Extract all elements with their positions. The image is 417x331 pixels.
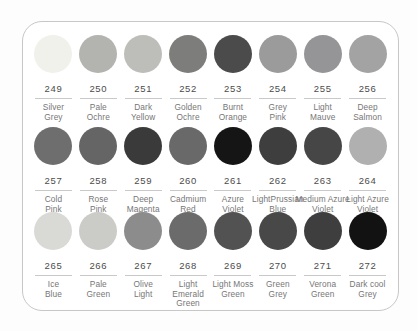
swatch-number: 272: [359, 261, 377, 271]
swatch-divider: [304, 275, 341, 276]
color-chart-card: 249 SilverGrey 250 PaleOchre 251 DarkYel…: [22, 21, 399, 311]
swatch-name-line: Grey: [266, 290, 290, 300]
swatch-grid: 249 SilverGrey 250 PaleOchre 251 DarkYel…: [31, 35, 390, 308]
color-swatch-circle: [34, 212, 72, 250]
swatch-number: 269: [224, 261, 242, 271]
swatch-divider: [214, 98, 251, 99]
swatch-number: 268: [179, 261, 197, 271]
swatch-number: 251: [134, 84, 152, 94]
swatch-number: 266: [89, 261, 107, 271]
swatch-name-line: Mauve: [310, 113, 335, 123]
swatch-number: 252: [179, 84, 197, 94]
swatch-name-line: Ochre: [174, 113, 201, 123]
swatch-name: DarkYellow: [131, 103, 155, 122]
swatch-divider: [35, 275, 72, 276]
color-swatch-cell: 264 Light AzureViolet: [345, 127, 390, 212]
color-swatch-cell: 252 GoldenOchre: [166, 35, 211, 127]
swatch-number: 262: [269, 176, 287, 186]
color-swatch-circle: [79, 212, 117, 250]
color-swatch-circle: [259, 212, 297, 250]
swatch-name: BurntOrange: [219, 103, 247, 122]
swatch-divider: [170, 190, 207, 191]
color-swatch-circle: [169, 212, 207, 250]
swatch-name-line: Green: [87, 290, 111, 300]
swatch-divider: [259, 98, 296, 99]
color-swatch-cell: 270 GreenGrey: [255, 212, 300, 309]
color-swatch-circle: [79, 127, 117, 165]
swatch-name: LightMauve: [310, 103, 335, 122]
swatch-number: 271: [314, 261, 332, 271]
swatch-number: 267: [134, 261, 152, 271]
color-swatch-cell: 251 DarkYellow: [121, 35, 166, 127]
swatch-divider: [80, 275, 117, 276]
color-swatch-cell: 266 PaleGreen: [76, 212, 121, 309]
color-swatch-cell: 267 OliveLight: [121, 212, 166, 309]
swatch-divider: [170, 98, 207, 99]
color-swatch-cell: 271 VeronaGreen: [300, 212, 345, 309]
color-swatch-cell: 261 AzureViolet: [211, 127, 256, 212]
swatch-name-line: Grey: [43, 113, 64, 123]
color-swatch-cell: 253 BurntOrange: [211, 35, 256, 127]
swatch-divider: [125, 98, 162, 99]
color-swatch-circle: [304, 127, 342, 165]
swatch-name: VeronaGreen: [309, 280, 336, 299]
swatch-name-line: Salmon: [353, 113, 382, 123]
swatch-number: 253: [224, 84, 242, 94]
color-swatch-circle: [304, 212, 342, 250]
color-swatch-cell: 265 IceBlue: [31, 212, 76, 309]
swatch-divider: [170, 275, 207, 276]
swatch-divider: [35, 98, 72, 99]
color-swatch-cell: 255 LightMauve: [300, 35, 345, 127]
swatch-divider: [125, 190, 162, 191]
color-swatch-cell: 249 SilverGrey: [31, 35, 76, 127]
swatch-name-line: Ochre: [87, 113, 110, 123]
swatch-name-line: Orange: [219, 113, 247, 123]
swatch-number: 258: [89, 176, 107, 186]
color-swatch-circle: [124, 35, 162, 73]
swatch-divider: [349, 98, 386, 99]
swatch-number: 270: [269, 261, 287, 271]
swatch-divider: [259, 190, 296, 191]
color-swatch-circle: [79, 35, 117, 73]
color-swatch-cell: 250 PaleOchre: [76, 35, 121, 127]
swatch-number: 264: [359, 176, 377, 186]
color-swatch-circle: [259, 35, 297, 73]
color-swatch-circle: [124, 212, 162, 250]
swatch-divider: [259, 275, 296, 276]
color-swatch-circle: [214, 212, 252, 250]
color-swatch-cell: 268 LightEmeraldGreen: [166, 212, 211, 309]
swatch-name: OliveLight: [133, 280, 152, 299]
swatch-name-line: Yellow: [131, 113, 155, 123]
color-swatch-cell: 254 GreyPink: [255, 35, 300, 127]
color-swatch-circle: [34, 35, 72, 73]
swatch-name: GoldenOchre: [174, 103, 201, 122]
swatch-number: 259: [134, 176, 152, 186]
color-swatch-circle: [169, 35, 207, 73]
color-swatch-circle: [259, 127, 297, 165]
scanned-page: 249 SilverGrey 250 PaleOchre 251 DarkYel…: [0, 0, 417, 331]
swatch-number: 261: [224, 176, 242, 186]
color-swatch-circle: [214, 35, 252, 73]
swatch-name: IceBlue: [45, 280, 62, 299]
swatch-name-line: Green: [212, 290, 253, 300]
swatch-divider: [214, 190, 251, 191]
color-swatch-circle: [349, 35, 387, 73]
color-swatch-cell: 269 Light MossGreen: [211, 212, 256, 309]
color-swatch-cell: 259 DeepMagenta: [121, 127, 166, 212]
swatch-name-line: Blue: [45, 290, 62, 300]
swatch-divider: [349, 275, 386, 276]
color-swatch-circle: [169, 127, 207, 165]
swatch-divider: [304, 98, 341, 99]
swatch-name: PaleGreen: [87, 280, 111, 299]
swatch-name-line: Grey: [350, 290, 386, 300]
swatch-name: SilverGrey: [43, 103, 64, 122]
swatch-name: Light MossGreen: [212, 280, 253, 299]
swatch-divider: [214, 275, 251, 276]
swatch-name-line: Pink: [269, 113, 287, 123]
swatch-name-line: Light: [133, 290, 152, 300]
swatch-name: DeepSalmon: [353, 103, 382, 122]
swatch-number: 257: [45, 176, 63, 186]
swatch-divider: [35, 190, 72, 191]
swatch-divider: [349, 190, 386, 191]
swatch-name: Dark coolGrey: [350, 280, 386, 299]
